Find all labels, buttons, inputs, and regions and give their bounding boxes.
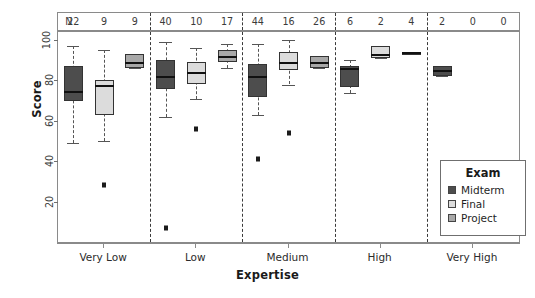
median-line (64, 91, 83, 93)
n-value-9: 6 (335, 13, 366, 30)
n-value-10: 2 (365, 13, 396, 30)
x-tick-label-very-high: Very High (446, 251, 497, 263)
y-tick-mark-4 (54, 40, 58, 41)
x-tick-mark-4 (472, 243, 473, 248)
group-separator-3 (427, 32, 428, 242)
x-tick-label-medium: Medium (267, 251, 309, 263)
whisker-cap-upper (344, 60, 356, 61)
legend-swatch-midterm (448, 186, 456, 194)
whisker-cap-lower (221, 68, 233, 69)
n-value-8: 26 (304, 13, 335, 30)
outlier-point (287, 130, 291, 135)
median-line (371, 54, 390, 56)
whisker-cap-lower (282, 85, 294, 86)
whisker-cap-upper (190, 48, 202, 49)
x-tick-label-low: Low (185, 251, 206, 263)
box-very-low-project (125, 54, 144, 68)
median-line (156, 76, 175, 78)
whisker-cap-upper (282, 40, 294, 41)
x-tick-label-very-low: Very Low (79, 251, 126, 263)
legend-item-midterm: Midterm (448, 184, 518, 196)
x-tick-label-high: High (368, 251, 392, 263)
box-high-final (371, 46, 390, 58)
n-value-5: 17 (212, 13, 243, 30)
legend-label-final: Final (461, 198, 485, 210)
whisker-cap-lower (313, 68, 325, 69)
legend-label-midterm: Midterm (461, 184, 505, 196)
outlier-point (194, 126, 198, 131)
sample-size-row: N2299401017441626624200 (57, 12, 520, 31)
x-tick-mark-1 (195, 243, 196, 248)
group-separator-2 (335, 32, 336, 242)
whisker-cap-lower (129, 68, 141, 69)
x-tick-mark-3 (380, 243, 381, 248)
n-row-separator-1 (242, 13, 243, 30)
whisker-cap-upper (252, 44, 264, 45)
n-value-2: 9 (119, 13, 150, 30)
n-value-13: 0 (458, 13, 489, 30)
group-separator-0 (150, 32, 151, 242)
median-line (433, 70, 452, 72)
legend-item-final: Final (448, 198, 518, 210)
n-value-11: 4 (396, 13, 427, 30)
median-line (218, 56, 237, 58)
y-tick-mark-0 (54, 202, 58, 203)
box-very-low-midterm (64, 66, 83, 100)
median-line (248, 76, 267, 78)
median-line (279, 62, 298, 64)
y-tick-label-4: 100 (37, 35, 55, 46)
n-row-separator-3 (427, 13, 428, 30)
whisker-cap-lower (159, 117, 171, 118)
legend: Exam MidtermFinalProject (440, 160, 526, 236)
n-value-0: 22 (58, 13, 89, 30)
legend-label-project: Project (461, 212, 497, 224)
x-axis-line (57, 243, 520, 244)
median-line (125, 62, 144, 64)
outlier-point (102, 183, 106, 188)
legend-swatch-project (448, 214, 456, 222)
median-line (402, 52, 421, 54)
outlier-point (164, 225, 168, 230)
whisker-cap-lower (375, 58, 387, 59)
legend-swatch-final (448, 200, 456, 208)
outlier-point (256, 157, 260, 162)
whisker-cap-upper (98, 50, 110, 51)
whisker-cap-lower (436, 76, 448, 77)
whisker-cap-upper (159, 42, 171, 43)
whisker-cap-lower (344, 93, 356, 94)
n-value-7: 16 (273, 13, 304, 30)
legend-entries: MidtermFinalProject (448, 184, 518, 224)
box-medium-midterm (248, 64, 267, 96)
n-value-4: 10 (181, 13, 212, 30)
y-tick-mark-3 (54, 80, 58, 81)
whisker-cap-lower (190, 99, 202, 100)
x-tick-mark-0 (103, 243, 104, 248)
legend-title: Exam (448, 166, 518, 180)
y-tick-mark-1 (54, 161, 58, 162)
whisker-cap-lower (252, 115, 264, 116)
n-row-separator-2 (335, 13, 336, 30)
median-line (310, 62, 329, 64)
n-row-separator-0 (150, 13, 151, 30)
median-line (95, 85, 114, 87)
legend-item-project: Project (448, 212, 518, 224)
median-line (187, 72, 206, 74)
median-line (340, 68, 359, 70)
x-axis-label: Expertise (0, 268, 535, 282)
whisker-cap-lower (98, 141, 110, 142)
whisker-cap-lower (67, 143, 79, 144)
box-medium-final (279, 52, 298, 70)
n-value-12: 2 (427, 13, 458, 30)
n-value-1: 9 (89, 13, 120, 30)
n-value-6: 44 (242, 13, 273, 30)
box-low-midterm (156, 60, 175, 88)
whisker-cap-upper (67, 46, 79, 47)
x-tick-mark-2 (288, 243, 289, 248)
y-tick-mark-2 (54, 121, 58, 122)
boxplot-figure: Score Expertise N2299401017441626624200 … (0, 0, 535, 298)
n-value-14: 0 (488, 13, 519, 30)
n-value-3: 40 (150, 13, 181, 30)
whisker-cap-upper (221, 44, 233, 45)
group-separator-1 (242, 32, 243, 242)
